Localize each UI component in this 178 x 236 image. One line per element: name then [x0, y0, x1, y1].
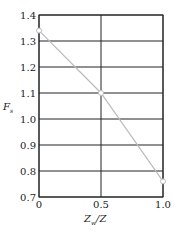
- y-tick-label: 1.0: [20, 114, 36, 125]
- data-point-marker: [37, 28, 42, 33]
- x-tick-label: 1.0: [155, 199, 171, 210]
- y-tick-label: 1.2: [20, 62, 36, 73]
- line-chart: 0.70.80.91.01.11.21.31.4 00.51.0 Fs Zw/Z: [0, 0, 178, 236]
- y-tick-label: 0.8: [20, 166, 36, 177]
- y-tick-label: 1.3: [20, 36, 36, 47]
- x-tick-label: 0.5: [93, 199, 109, 210]
- y-axis-label: Fs: [2, 101, 13, 114]
- data-point-marker: [99, 91, 104, 96]
- y-tick-label: 1.1: [20, 88, 36, 99]
- x-axis-label: Zw/Z: [83, 213, 107, 226]
- x-tick-label: 0: [36, 199, 42, 210]
- data-point-marker: [161, 179, 166, 184]
- y-tick-label: 0.9: [20, 140, 36, 151]
- y-tick-label: 1.4: [20, 10, 36, 21]
- x-axis-ticks: 00.51.0: [36, 199, 171, 210]
- y-tick-label: 0.7: [20, 192, 36, 203]
- grid-lines: [39, 15, 163, 197]
- y-axis-ticks: 0.70.80.91.01.11.21.31.4: [20, 10, 36, 203]
